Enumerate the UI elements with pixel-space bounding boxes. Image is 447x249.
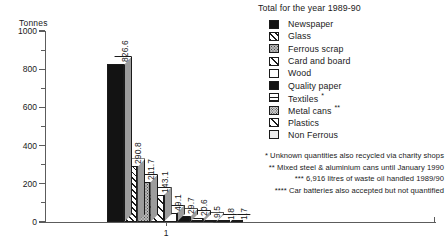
legend-swatch-icon bbox=[269, 69, 279, 78]
legend-item-plastics: Plastics bbox=[269, 116, 439, 128]
legend-item-metal-cans: Metal cans** bbox=[269, 104, 439, 116]
footnote-4: **** Car batteries also accepted but not… bbox=[238, 185, 444, 197]
bar-side-face bbox=[124, 56, 132, 222]
legend-item-label: Textiles* bbox=[288, 92, 324, 104]
legend-item-label: Newspaper bbox=[288, 19, 333, 29]
bar-value-label: 826.6 bbox=[120, 40, 130, 62]
legend-swatch-icon bbox=[269, 93, 279, 102]
legend-item-wood: Wood bbox=[269, 67, 439, 79]
legend-footnote-marker: * bbox=[321, 92, 324, 99]
bar-value-label: 29.7 bbox=[186, 197, 196, 214]
bar-value-label: 1.8 bbox=[226, 208, 236, 220]
legend-swatch-icon bbox=[269, 106, 279, 115]
legend-item-label: Ferrous scrap bbox=[288, 44, 344, 54]
bar-side-face bbox=[137, 158, 145, 222]
bar-value-label: 9.5 bbox=[212, 206, 222, 218]
footnote-3: *** 6,916 litres of waste oil handled 19… bbox=[238, 173, 444, 185]
legend-item-quality-paper: Quality paper bbox=[269, 79, 439, 91]
legend-swatch-icon bbox=[269, 81, 279, 90]
legend-item-glass: Glass bbox=[269, 30, 439, 42]
footnote-2: ** Mixed steel & aluminium cans until Ja… bbox=[238, 162, 444, 174]
legend-item-label: Non Ferrous bbox=[288, 130, 338, 140]
legend-swatch-icon bbox=[269, 57, 279, 66]
legend-item-card-and-board: Card and board bbox=[269, 55, 439, 67]
legend-item-label: Glass bbox=[288, 31, 311, 41]
legend-item-newspaper: Newspaper bbox=[269, 18, 439, 30]
bar-value-label: 49.1 bbox=[173, 194, 183, 211]
bar-value-label: 211.7 bbox=[146, 158, 156, 179]
legend-swatch-icon bbox=[269, 32, 279, 41]
legend-item-non-ferrous: Non Ferrous bbox=[269, 129, 439, 141]
bar-front-face bbox=[107, 64, 124, 222]
bar-newspaper bbox=[107, 56, 132, 222]
legend-item-label: Quality paper bbox=[288, 81, 342, 91]
legend-item-label: Wood bbox=[288, 68, 311, 78]
legend-item-label: Card and board bbox=[288, 56, 351, 66]
legend-item-ferrous-scrap: Ferrous scrap bbox=[269, 43, 439, 55]
bar-value-label: 1.7 bbox=[239, 208, 249, 220]
legend-swatch-icon bbox=[269, 118, 279, 127]
bar-value-label: 143.1 bbox=[160, 171, 170, 193]
legend-swatch-icon bbox=[269, 20, 279, 29]
bar-value-label: 20.6 bbox=[199, 199, 209, 216]
footnotes-block: * Unknown quantities also recycled via c… bbox=[238, 150, 444, 196]
chart-legend: NewspaperGlassFerrous scrapCard and boar… bbox=[269, 18, 439, 141]
legend-item-label: Plastics bbox=[288, 118, 319, 128]
recycling-tonnage-bar-chart: Total for the year 1989-90 Tonnes 100080… bbox=[0, 0, 447, 249]
legend-item-textiles: Textiles* bbox=[269, 92, 439, 104]
footnote-1: * Unknown quantities also recycled via c… bbox=[238, 150, 444, 162]
legend-footnote-marker: ** bbox=[335, 104, 341, 111]
bar-value-label: 290.8 bbox=[133, 143, 143, 165]
legend-swatch-icon bbox=[269, 130, 279, 139]
legend-item-label: Metal cans** bbox=[288, 104, 340, 116]
legend-swatch-icon bbox=[269, 44, 279, 53]
